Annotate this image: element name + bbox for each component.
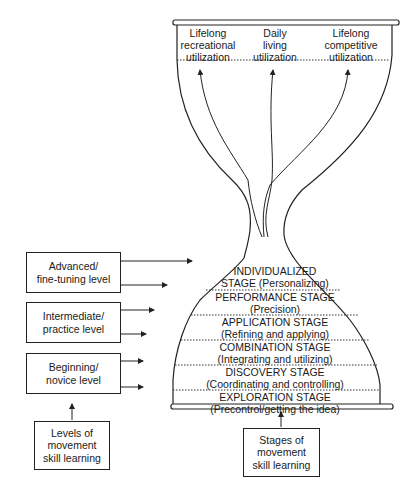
level-beginning-box: Beginning/ novice level (26, 353, 121, 394)
outcome-recreational: Lifelong recreational utilization (176, 27, 240, 63)
levels-caption-box: Levels of movement skill learning (34, 421, 110, 470)
top-plate (173, 20, 399, 25)
level-advanced-box: Advanced/ fine-tuning level (26, 252, 121, 293)
stage-application: APPLICATION STAGE (Refining and applying… (185, 316, 365, 340)
stage-individualized: INDIVIDUALIZED STAGE (Personalizing) (200, 265, 350, 289)
stage-exploration: EXPLORATION STAGE (Precontrol/getting th… (175, 391, 375, 415)
stage-discovery: DISCOVERY STAGE (Coordinating and contro… (175, 366, 375, 390)
stage-combination: COMBINATION STAGE (Integrating and utili… (180, 341, 370, 365)
stage-performance: PERFORMANCE STAGE (Precision) (190, 291, 360, 315)
outcome-daily-living: Daily living utilization (245, 27, 305, 63)
stages-caption-box: Stages of movement skill learning (243, 428, 320, 477)
level-intermediate-box: Intermediate/ practice level (26, 302, 121, 343)
outcome-competitive: Lifelong competitive utilization (315, 27, 387, 63)
